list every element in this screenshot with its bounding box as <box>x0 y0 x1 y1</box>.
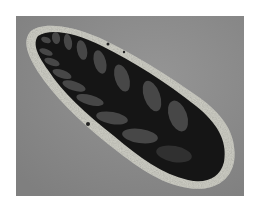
micrograph-photo <box>16 16 244 196</box>
fossil-specimen <box>16 16 244 196</box>
